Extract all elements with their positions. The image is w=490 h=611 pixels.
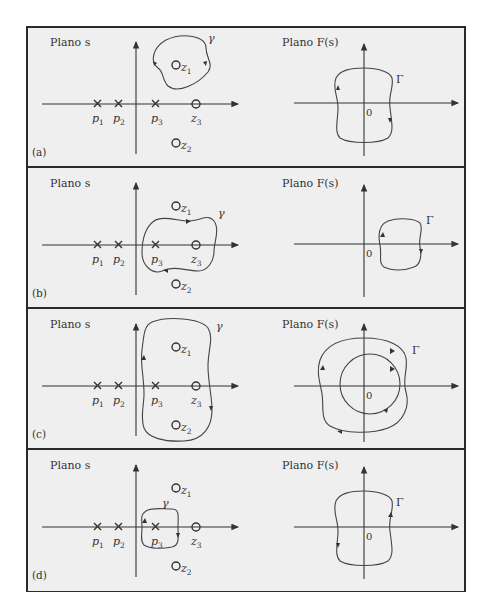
arrow-icon	[390, 348, 395, 354]
Gamma-inner-loop	[340, 354, 400, 414]
arrow-icon	[320, 365, 325, 370]
arrow-icon	[176, 533, 180, 538]
f-plane-title: Plano F(s)	[282, 459, 339, 472]
s-plane-title: Plano s	[50, 459, 91, 472]
origin-label: 0	[366, 248, 372, 259]
gamma-label: γ	[208, 32, 215, 45]
zero-z1-icon	[172, 484, 180, 492]
pole-label: p1	[92, 112, 104, 127]
pole-label: p3	[151, 253, 163, 268]
f-plane-title: Plano F(s)	[282, 36, 339, 49]
zero-z1-icon	[172, 202, 180, 210]
pole-label: p1	[92, 535, 104, 550]
panel-tag: (d)	[32, 569, 47, 581]
arrow-icon	[383, 408, 388, 413]
pole-label: p2	[113, 535, 125, 550]
arrow-icon	[337, 430, 342, 434]
panel-d-diagram: Plano s p1 p2 p3 z3 z1 z2 γ (d) Plano F(…	[28, 451, 464, 591]
pole-label: p2	[113, 112, 125, 127]
panel-b: Plano s p1 p2 p3 z3 z1 z2 γ (b) Plano F(…	[28, 169, 464, 309]
panel-c-diagram: Plano s p1 p2 p3 z3 z1 z2 γ (c) Plano F(…	[28, 310, 464, 450]
s-plane-title: Plano s	[50, 36, 91, 49]
zero-label: z2	[180, 562, 192, 577]
panel-a: Plano s p1 p2 p3 z3 z1 z2 γ (a) Plano F(…	[28, 28, 464, 168]
panel-tag: (b)	[32, 287, 47, 299]
origin-label: 0	[366, 531, 372, 542]
Gamma-outer-loop	[318, 338, 407, 432]
Gamma-label: Γ	[396, 73, 404, 86]
panel-a-diagram: Plano s p1 p2 p3 z3 z1 z2 γ (a) Plano F(…	[28, 28, 464, 168]
arrow-icon	[388, 512, 393, 517]
zero-z1-icon	[172, 61, 180, 69]
f-plane-title: Plano F(s)	[282, 318, 339, 331]
arrow-icon	[163, 269, 168, 273]
s-plane-title: Plano s	[50, 177, 91, 190]
Gamma-label: Γ	[396, 496, 404, 509]
zero-label: z3	[190, 253, 202, 268]
zero-label: z3	[190, 394, 202, 409]
zero-z2-icon	[172, 562, 180, 570]
s-plane-title: Plano s	[50, 318, 91, 331]
origin-label: 0	[366, 107, 372, 118]
zero-z1-icon	[172, 343, 180, 351]
pole-label: p1	[92, 253, 104, 268]
gamma-label: γ	[218, 207, 225, 220]
zero-label: z1	[180, 202, 192, 217]
panel-b-diagram: Plano s p1 p2 p3 z3 z1 z2 γ (b) Plano F(…	[28, 169, 464, 309]
zero-label: z1	[180, 61, 192, 76]
arrow-icon	[336, 85, 340, 90]
zero-label: z2	[180, 280, 192, 295]
gamma-label: γ	[162, 497, 169, 510]
Gamma-label: Γ	[426, 214, 434, 227]
pole-label: p2	[113, 394, 125, 409]
zero-z2-icon	[172, 280, 180, 288]
panel-c: Plano s p1 p2 p3 z3 z1 z2 γ (c) Plano F(…	[28, 310, 464, 450]
gamma-label: γ	[216, 320, 223, 333]
arrow-icon	[186, 219, 191, 224]
zero-z2-icon	[172, 139, 180, 147]
zero-z2-icon	[172, 421, 180, 429]
arrow-icon	[203, 61, 207, 66]
f-plane-title: Plano F(s)	[282, 177, 339, 190]
zero-label: z1	[180, 343, 192, 358]
zero-label: z1	[180, 484, 192, 499]
panel-d: Plano s p1 p2 p3 z3 z1 z2 γ (d) Plano F(…	[28, 451, 464, 591]
gamma-contour	[141, 319, 212, 442]
pole-label: p1	[92, 394, 104, 409]
Gamma-label: Γ	[412, 344, 420, 357]
pole-label: p3	[151, 394, 163, 409]
figure-frame: Plano s p1 p2 p3 z3 z1 z2 γ (a) Plano F(…	[26, 26, 466, 592]
zero-label: z3	[190, 535, 202, 550]
origin-label: 0	[366, 390, 372, 401]
panel-tag: (a)	[32, 146, 46, 158]
zero-label: z2	[180, 421, 192, 436]
arrow-icon	[380, 232, 385, 237]
zero-label: z3	[190, 112, 202, 127]
pole-label: p3	[151, 112, 163, 127]
pole-label: p2	[113, 253, 125, 268]
arrow-icon	[142, 518, 147, 523]
zero-label: z2	[180, 139, 192, 154]
arrow-icon	[419, 249, 423, 254]
panel-tag: (c)	[32, 428, 46, 440]
